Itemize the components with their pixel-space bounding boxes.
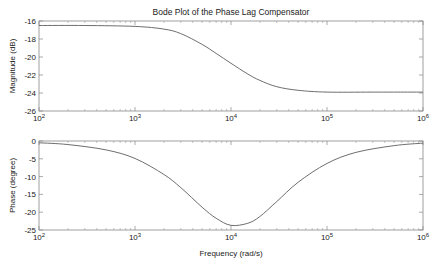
subplot-phase: 1021031041051060-5-10-15-20-25Phase (deg…	[8, 137, 430, 258]
series-phase-line	[39, 143, 423, 226]
x-axis-label: Frequency (rad/s)	[199, 249, 262, 258]
bode-plot: 102103104105106-16-18-20-22-24-26Magnitu…	[0, 0, 439, 267]
plot-frame	[39, 21, 423, 111]
subplot-magnitude: 102103104105106-16-18-20-22-24-26Magnitu…	[8, 7, 430, 123]
y-tick-label: -15	[24, 190, 36, 199]
x-tick-label: 105	[321, 113, 334, 123]
y-axis-label: Magnitude (dB)	[8, 38, 17, 93]
y-tick-label: -20	[24, 53, 36, 62]
y-tick-label: -20	[24, 208, 36, 217]
y-axis-label: Phase (degree)	[8, 158, 17, 213]
chart-title: Bode Plot of the Phase Lag Compensator	[153, 7, 310, 17]
y-tick-label: -16	[24, 17, 36, 26]
x-tick-label: 104	[225, 232, 238, 242]
y-tick-label: 0	[32, 137, 37, 146]
y-tick-label: -24	[24, 89, 36, 98]
x-tick-label: 105	[321, 232, 334, 242]
y-tick-label: -26	[24, 107, 36, 116]
plot-frame	[39, 141, 423, 230]
x-tick-label: 103	[129, 232, 142, 242]
y-tick-label: -25	[24, 226, 36, 235]
series-magnitude-line	[39, 25, 423, 92]
y-tick-label: -5	[29, 155, 37, 164]
x-tick-label: 106	[417, 113, 430, 123]
x-tick-label: 103	[129, 113, 142, 123]
x-tick-label: 106	[417, 232, 430, 242]
y-tick-label: -22	[24, 71, 36, 80]
y-tick-label: -10	[24, 173, 36, 182]
y-tick-label: -18	[24, 35, 36, 44]
x-tick-label: 104	[225, 113, 238, 123]
